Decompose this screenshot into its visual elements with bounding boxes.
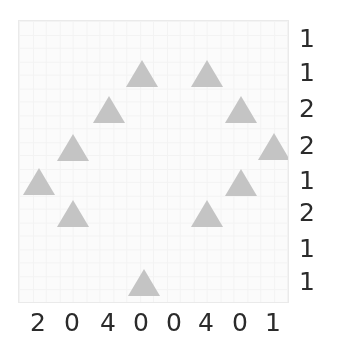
data-point-marker [225,96,257,123]
y-tick-label: 1 [299,26,315,51]
data-markers-layer [19,21,288,302]
x-tick-label: 0 [166,310,182,335]
x-tick-label: 0 [232,310,248,335]
data-point-marker [128,269,160,296]
data-point-marker [191,200,223,227]
scatter-plot-figure: 11221211 20400401 [0,0,337,354]
y-tick-label: 2 [299,200,315,225]
x-tick-label: 2 [30,310,46,335]
x-tick-label: 0 [64,310,80,335]
x-tick-label: 4 [100,310,116,335]
data-point-marker [126,60,158,87]
y-tick-label: 2 [299,96,315,121]
y-tick-label: 2 [299,133,315,158]
data-point-marker [23,168,55,195]
x-tick-label: 4 [198,310,214,335]
y-tick-label: 1 [299,168,315,193]
plot-area [18,20,289,303]
y-tick-label: 1 [299,60,315,85]
data-point-marker [258,133,289,160]
x-tick-label: 1 [265,310,281,335]
data-point-marker [225,169,257,196]
data-point-marker [93,96,125,123]
y-tick-label: 1 [299,236,315,261]
data-point-marker [57,200,89,227]
data-point-marker [57,134,89,161]
x-tick-label: 0 [133,310,149,335]
y-tick-label: 1 [299,269,315,294]
data-point-marker [191,60,223,87]
